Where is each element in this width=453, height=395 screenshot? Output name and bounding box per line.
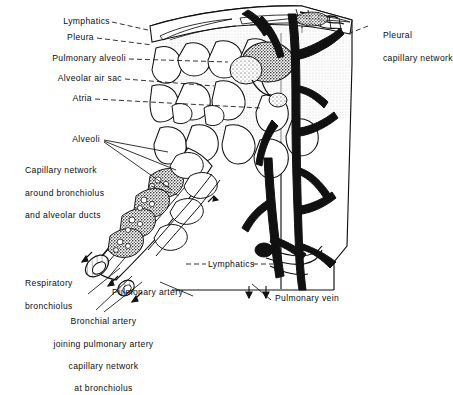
pleural-capillary-line-1: Pleural <box>383 30 412 40</box>
label-pulmonary-artery: Pulmonary artery <box>112 287 183 298</box>
label-pleura: Pleura <box>14 32 94 43</box>
label-lymphatics-mid: Lymphatics <box>208 259 255 270</box>
label-alveoli: Alveoli <box>20 134 100 145</box>
label-pulmonary-alveoli: Pulmonary alveoli <box>4 53 126 64</box>
respiratory-bronchiolus-line-1: Respiratory <box>25 278 73 288</box>
label-pleural-capillary-network: Pleural capillary network <box>372 19 453 75</box>
bronchial-artery-line-1: Bronchial artery <box>71 316 137 326</box>
label-bronchial-artery-note: Bronchial artery joining pulmonary arter… <box>10 305 186 395</box>
label-pulmonary-vein: Pulmonary vein <box>275 293 339 304</box>
capillary-network-line-2: around bronchiolus <box>25 188 104 198</box>
bronchial-artery-line-3: capillary network <box>69 361 139 371</box>
capillary-network-line-1: Capillary network <box>25 165 97 175</box>
label-alveolar-air-sac: Alveolar air sac <box>4 73 122 84</box>
label-capillary-network-around-bronchiolus: Capillary network around bronchiolus and… <box>14 154 104 232</box>
label-lymphatics-top: Lymphatics <box>14 16 110 27</box>
label-atria: Atria <box>14 93 92 104</box>
pleural-capillary-line-2: capillary network <box>383 53 453 63</box>
bronchial-artery-line-4: at bronchiolus <box>74 383 132 393</box>
bronchial-artery-line-2: joining pulmonary artery <box>53 339 153 349</box>
capillary-network-line-3: and alveolar ducts <box>25 210 101 220</box>
